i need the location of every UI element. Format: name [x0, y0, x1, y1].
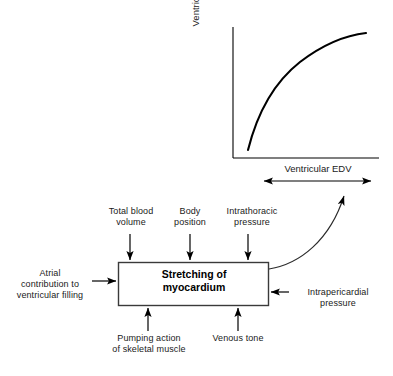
chart-x-axis-label: Ventricular EDV [258, 163, 378, 174]
physiology-diagram-figure: Ventricular performance Ventricular EDV … [0, 0, 393, 376]
label-body-position: Body position [158, 206, 222, 228]
label-pumping-action: Pumping action of skeletal muscle [102, 333, 196, 355]
label-venous-tone: Venous tone [204, 333, 272, 344]
top-input-arrows [130, 234, 248, 260]
label-intrathoracic-pressure: Intrathoracic pressure [214, 206, 290, 228]
label-intrapericardial-pressure: Intrapericardial pressure [292, 287, 384, 309]
diagram-vector-layer [0, 0, 393, 376]
chart-axes [233, 27, 379, 158]
central-box-label: Stretching of myocardium [120, 268, 268, 294]
bottom-input-arrows [148, 308, 238, 331]
label-atrial-contribution: Atrial contribution to ventricular filli… [8, 268, 92, 301]
frank-starling-curve [248, 33, 366, 150]
label-total-blood-volume: Total blood volume [96, 206, 166, 228]
chart-y-axis-label: Ventricular performance [190, 0, 201, 36]
